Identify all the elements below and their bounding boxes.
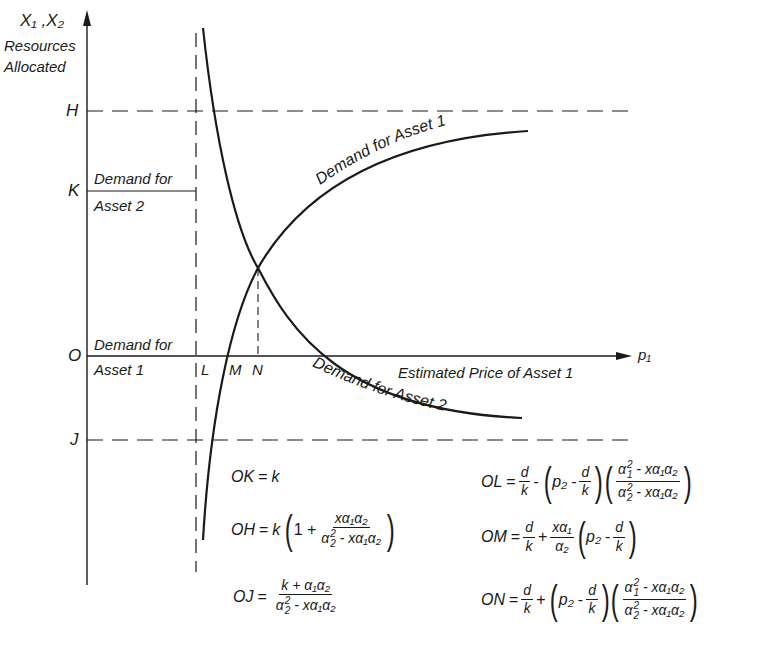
eq-on-dk: dk (521, 583, 533, 617)
equation-om: OM = dk + xα₁α₂ ( p₂ - dk ) (481, 517, 637, 557)
alpha: α (321, 530, 329, 546)
eq-oj-lhs: OJ (233, 588, 253, 606)
eq-ol-minus: - (571, 473, 576, 491)
k: k (524, 538, 535, 554)
eq-on-dk2: dk (586, 583, 598, 617)
den-rest: - xα₁α₂ (632, 484, 677, 500)
paren-close: ) (602, 580, 610, 620)
eq-om-p2: p₂ (586, 528, 601, 546)
y-axis-title-line2: Allocated (4, 59, 66, 74)
paren-open: ( (577, 517, 585, 557)
x-axis-arrow-icon (616, 352, 632, 360)
eq-om-op: + (538, 528, 547, 546)
curve-label-asset2: Demand for Asset 2 (311, 353, 449, 414)
mark-j: J (70, 431, 79, 448)
eq-ok-lhs: OK (231, 468, 254, 486)
den-rest: - xα₁α₂ (639, 602, 684, 618)
mark-k: K (68, 182, 79, 199)
eq-sign: = (258, 468, 267, 486)
k: k (614, 538, 625, 554)
d: d (523, 520, 535, 537)
paren-open: ( (285, 510, 293, 550)
eq-sign: = (511, 528, 520, 546)
paren-open: ( (604, 462, 612, 502)
paren-close: ) (690, 580, 698, 620)
eq-oh-denominator: α22 - xα₁α₂ (319, 528, 383, 549)
eq-om-numerator: xα₁ (550, 520, 573, 537)
eq-ol-dk: dk (519, 465, 531, 499)
eq-om-minus: - (605, 528, 610, 546)
alpha: α (618, 484, 626, 500)
num-rest: - xα₁α₂ (632, 461, 677, 477)
eq-ol-numerator: α21 - xα₁α₂ (616, 460, 680, 482)
paren-close: ) (387, 510, 395, 550)
y-axis-arrow-icon (83, 10, 91, 26)
eq-ol-denominator: α22 - xα₁α₂ (616, 482, 680, 503)
demand-asset1-label-line2: Asset 1 (94, 362, 144, 377)
eq-on-denominator: α22 - xα₁α₂ (623, 600, 687, 621)
eq-on-lhs: ON (481, 591, 505, 609)
eq-sign: = (259, 521, 268, 539)
demand-asset1-label-line1: Demand for (94, 337, 172, 352)
eq-om-dk2: dk (613, 520, 625, 554)
eq-oj-fraction: k + α₁α₂ α22 - xα₁α₂ (274, 578, 338, 616)
eq-oh-lhs: OH (231, 521, 255, 539)
eq-on-numerator: α21 - xα₁α₂ (623, 578, 687, 600)
eq-ol-op: - (533, 473, 538, 491)
paren-close: ) (683, 462, 691, 502)
mark-l: L (201, 362, 209, 377)
den-rest: - xα₁α₂ (336, 530, 381, 546)
demand-asset2-curve (203, 28, 522, 418)
alpha: α (276, 597, 284, 613)
d: d (586, 583, 598, 600)
eq-sign: = (506, 473, 515, 491)
k: k (519, 482, 530, 498)
eq-oh-one-plus: 1 + (294, 521, 317, 539)
paren-open: ( (550, 580, 558, 620)
equation-ok: OK = k (231, 468, 279, 486)
eq-ol-fraction: α21 - xα₁α₂ α22 - xα₁α₂ (616, 460, 680, 503)
demand-asset2-label-line2: Asset 2 (94, 198, 144, 213)
eq-ol-dk2: dk (579, 465, 591, 499)
eq-ok-rhs: k (271, 468, 279, 486)
mark-m: M (229, 362, 242, 377)
d: d (519, 465, 531, 482)
x-axis-symbol: p₁ (638, 347, 651, 362)
eq-on-p2: p₂ (559, 591, 574, 609)
num-rest: - xα₁α₂ (639, 579, 684, 595)
eq-om-lhs: OM (481, 528, 507, 546)
eq-sign: = (257, 588, 266, 606)
alpha: α (625, 602, 633, 618)
eq-oj-denominator: α22 - xα₁α₂ (274, 595, 338, 616)
equation-ol: OL = dk - ( p₂ - dk ) ( α21 - xα₁α₂ α22 … (481, 460, 692, 503)
d: d (579, 465, 591, 482)
eq-oh-fraction: xα₁α₂ α22 - xα₁α₂ (319, 511, 383, 549)
eq-om-fraction: xα₁α₂ (550, 520, 573, 554)
eq-oj-numerator: k + α₁α₂ (279, 578, 332, 595)
den-rest: - xα₁α₂ (290, 597, 335, 613)
demand-asset2-label-line1: Demand for (94, 171, 172, 186)
mark-h: H (66, 102, 78, 119)
equation-oj: OJ = k + α₁α₂ α22 - xα₁α₂ (233, 578, 341, 616)
equation-on: ON = dk + ( p₂ - dk ) ( α21 - xα₁α₂ α22 … (481, 578, 699, 621)
paren-close: ) (595, 462, 603, 502)
x-axis-title: Estimated Price of Asset 1 (398, 365, 573, 380)
eq-sign: = (509, 591, 518, 609)
paren-open: ( (611, 580, 619, 620)
paren-open: ( (543, 462, 551, 502)
y-axis-symbol: X₁ ,X₂ (20, 12, 64, 29)
eq-on-fraction: α21 - xα₁α₂ α22 - xα₁α₂ (623, 578, 687, 621)
paren-close: ) (629, 517, 637, 557)
k: k (522, 600, 533, 616)
alpha: α (618, 461, 626, 477)
y-axis-title-line1: Resources (4, 38, 76, 53)
origin-label: O (68, 347, 81, 364)
eq-on-minus: - (578, 591, 583, 609)
eq-on-op: + (536, 591, 545, 609)
alpha: α (625, 579, 633, 595)
k: k (587, 600, 598, 616)
eq-oh-numerator: xα₁α₂ (333, 511, 370, 528)
eq-ol-p2: p₂ (552, 473, 567, 491)
eq-ol-lhs: OL (481, 473, 502, 491)
eq-oh-k: k (272, 521, 280, 539)
